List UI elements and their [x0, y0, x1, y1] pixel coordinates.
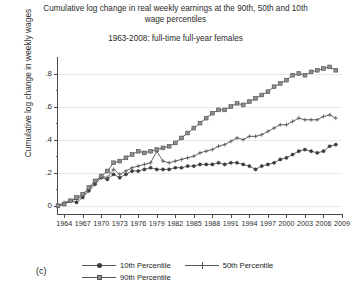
- data-point: [173, 141, 177, 145]
- legend-item-10th[interactable]: 10th Percentile: [82, 260, 171, 270]
- data-point: [136, 164, 140, 168]
- legend-item-50th[interactable]: 50th Percentile: [185, 260, 274, 270]
- data-point: [161, 168, 164, 171]
- figure-panel-c: Cumulative log change in real weekly ear…: [0, 0, 351, 301]
- x-axis-tick: [83, 214, 84, 218]
- data-point: [278, 123, 282, 127]
- data-point: [309, 118, 313, 122]
- data-point: [192, 154, 196, 158]
- data-point: [217, 161, 220, 164]
- legend-item-90th[interactable]: 90th Percentile: [82, 272, 171, 282]
- chart-title-line2: wage percentiles: [0, 14, 351, 25]
- data-point: [186, 156, 190, 160]
- data-point: [285, 78, 289, 82]
- data-point: [75, 196, 79, 200]
- data-point: [334, 68, 338, 72]
- x-axis-tick: [101, 214, 102, 218]
- data-point: [303, 118, 307, 122]
- plus-marker-icon: [185, 260, 219, 270]
- data-point: [167, 161, 171, 165]
- data-point: [291, 73, 295, 77]
- data-point: [217, 144, 221, 148]
- data-point: [235, 136, 239, 140]
- data-point: [112, 173, 115, 176]
- data-point: [211, 163, 214, 166]
- data-point: [278, 82, 282, 86]
- data-point: [254, 168, 257, 171]
- data-point: [266, 90, 270, 94]
- series-10th-percentile: [56, 143, 337, 207]
- data-point: [260, 133, 264, 137]
- data-point: [315, 118, 319, 122]
- data-point: [130, 166, 134, 170]
- data-point: [297, 150, 300, 153]
- data-point: [192, 126, 196, 130]
- data-point: [266, 129, 270, 133]
- data-point: [198, 121, 202, 125]
- series-line: [58, 115, 336, 206]
- x-axis-tick: [120, 214, 121, 218]
- y-axis-tick-label: .8: [36, 70, 52, 78]
- data-point: [142, 162, 146, 166]
- x-axis-tick: [342, 214, 343, 218]
- data-point: [210, 111, 214, 115]
- data-point: [155, 148, 159, 152]
- data-point: [334, 143, 337, 146]
- data-point: [180, 136, 184, 140]
- data-point: [247, 100, 251, 104]
- data-point: [179, 157, 183, 161]
- data-point: [260, 164, 263, 167]
- data-point: [235, 161, 238, 164]
- chart-title-block: Cumulative log change in real weekly ear…: [0, 3, 351, 44]
- data-point: [186, 164, 189, 167]
- data-point: [223, 108, 227, 112]
- data-point: [297, 72, 301, 76]
- data-point: [143, 151, 147, 155]
- data-point: [198, 163, 201, 166]
- data-point: [229, 161, 232, 164]
- data-point: [155, 168, 158, 171]
- data-point: [247, 134, 251, 138]
- data-point: [105, 169, 109, 173]
- data-point: [210, 148, 214, 152]
- data-point: [124, 156, 128, 160]
- series-layer: [58, 57, 342, 214]
- x-axis-tick: [231, 214, 232, 218]
- x-axis-tick: [157, 214, 158, 218]
- data-point: [130, 153, 134, 157]
- data-point: [124, 169, 128, 173]
- data-point: [112, 161, 116, 165]
- data-point: [130, 169, 133, 172]
- data-point: [279, 158, 282, 161]
- data-point: [291, 153, 294, 156]
- data-point: [149, 161, 153, 165]
- chart-title-line1: Cumulative log change in real weekly ear…: [0, 3, 351, 14]
- data-point: [168, 168, 171, 171]
- data-point: [328, 113, 332, 117]
- data-point: [93, 179, 97, 183]
- series-line: [58, 67, 336, 206]
- series-50th-percentile: [56, 113, 338, 208]
- data-point: [118, 159, 122, 163]
- x-axis-tick: [249, 214, 250, 218]
- y-axis-tick-label: 0: [36, 202, 52, 210]
- data-point: [272, 126, 276, 130]
- data-point: [229, 105, 233, 109]
- data-point: [235, 101, 239, 105]
- x-axis-tick: [212, 214, 213, 218]
- chart-subtitle: 1963-2008: full-time full-year females: [0, 33, 351, 44]
- data-point: [99, 174, 103, 178]
- data-point: [242, 163, 245, 166]
- x-axis-tick: [286, 214, 287, 218]
- data-point: [229, 139, 233, 143]
- y-axis-tick-label: .4: [36, 136, 52, 144]
- y-axis-label: Cumulative log change in weekly wages: [23, 0, 33, 173]
- plot-area: 0.2.4.6.81964196719701973197619791982198…: [57, 57, 342, 215]
- data-point: [254, 96, 258, 100]
- data-point: [303, 148, 306, 151]
- data-point: [254, 134, 258, 138]
- legend-row-2: 90th Percentile: [82, 271, 332, 283]
- data-point: [241, 103, 245, 107]
- data-point: [186, 131, 190, 135]
- data-point: [272, 161, 275, 164]
